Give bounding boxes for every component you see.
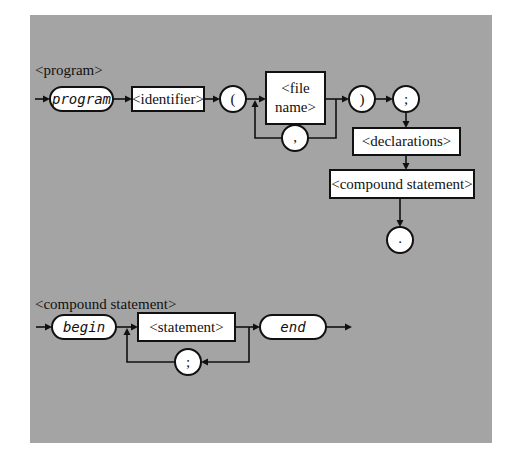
open-paren-node: (: [220, 86, 246, 112]
arrow-icon: [124, 328, 131, 335]
arrow-icon: [213, 96, 220, 103]
begin-keyword-node: begin: [52, 315, 116, 339]
comma-label: ,: [293, 129, 297, 145]
arrow-icon: [252, 100, 259, 107]
comma-node: ,: [282, 125, 308, 151]
compound-statement-title: <compound statement>: [35, 296, 176, 312]
arrow-icon: [125, 96, 132, 103]
close-paren-node: ): [349, 86, 375, 112]
declarations-node: <declarations>: [353, 128, 460, 155]
file-name-label-line2: name>: [275, 99, 316, 115]
separator-label: ;: [186, 354, 190, 370]
program-keyword-label: program: [51, 91, 112, 107]
end-keyword-label: end: [280, 319, 306, 335]
semicolon-node: ;: [393, 86, 419, 112]
period-label: .: [398, 230, 402, 246]
arrow-icon: [45, 324, 52, 331]
declarations-label: <declarations>: [362, 133, 451, 149]
arrow-icon: [259, 96, 266, 103]
separator-node: ;: [175, 349, 201, 375]
semicolon-label: ;: [404, 91, 408, 107]
file-name-node: <file name>: [266, 72, 325, 124]
program-title: <program>: [35, 62, 103, 78]
arrow-icon: [403, 163, 410, 170]
begin-keyword-label: begin: [63, 319, 105, 335]
compound-statement-label: <compound statement>: [331, 176, 472, 192]
compound-statement-node: <compound statement>: [330, 170, 474, 198]
identifier-label: <identifier>: [132, 91, 204, 107]
identifier-node: <identifier>: [132, 87, 204, 111]
close-paren-label: ): [360, 91, 365, 108]
compound-statement-diagram: <compound statement> begin <statement> ;: [35, 296, 352, 375]
statement-node: <statement>: [138, 313, 235, 341]
arrow-icon: [131, 324, 138, 331]
arrow-icon: [253, 324, 260, 331]
arrow-icon: [386, 96, 393, 103]
program-diagram: <program> program <identifier> ( <file: [35, 62, 474, 253]
statement-label: <statement>: [149, 319, 223, 335]
period-node: .: [387, 227, 413, 253]
open-paren-label: (: [231, 91, 236, 108]
program-keyword-node: program: [50, 87, 113, 111]
arrow-icon: [345, 324, 352, 331]
arrow-icon: [43, 96, 50, 103]
syntax-diagrams: <program> program <identifier> ( <file: [0, 0, 511, 464]
end-keyword-node: end: [260, 315, 326, 339]
arrow-icon: [397, 220, 404, 227]
file-name-label-line1: <file: [281, 80, 310, 96]
arrow-icon: [403, 121, 410, 128]
arrow-icon: [201, 359, 208, 366]
arrow-icon: [342, 96, 349, 103]
